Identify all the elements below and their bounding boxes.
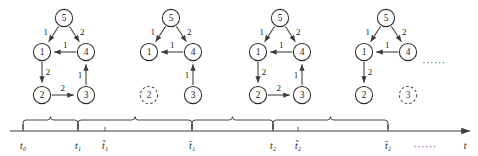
timeline-layer: t₀t₁t̃₁t̄₁t₂t̃₂t̄₂ t ······ xyxy=(0,0,478,156)
time-axis-tick-label: t̄₁ xyxy=(189,141,195,151)
time-axis-tick-label: t̄₂ xyxy=(385,141,392,151)
time-axis-ticks-group: t₀t₁t̃₁t̄₁t₂t̃₂t̄₂ xyxy=(20,124,392,151)
time-axis-tick-label: t̃₂ xyxy=(295,140,302,151)
temporal-graph-figure: 1212215142312115142312122151423121251423… xyxy=(0,0,478,156)
interval-brace xyxy=(273,117,388,129)
time-axis-tick-label: t̃₁ xyxy=(102,140,108,151)
time-axis-tick-label: t₁ xyxy=(75,141,81,151)
interval-brace xyxy=(78,117,192,129)
timeline-continuation-ellipsis: ······ xyxy=(413,141,437,152)
timeline-svg: t₀t₁t̃₁t̄₁t₂t̃₂t̄₂ t ······ xyxy=(0,0,478,156)
interval-brace xyxy=(23,117,78,129)
time-axis-tick-label: t₀ xyxy=(20,141,26,151)
interval-brace xyxy=(192,117,273,129)
time-axis-variable-label: t xyxy=(464,141,467,151)
time-axis-tick-label: t₂ xyxy=(270,141,277,151)
